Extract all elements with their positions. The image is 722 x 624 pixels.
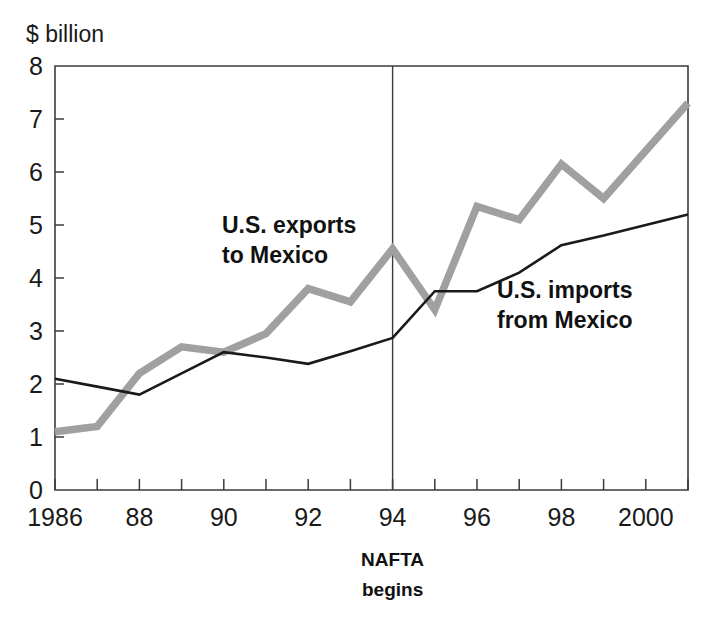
x-tick-label: 94 (379, 503, 407, 531)
y-tick-label: 2 (29, 370, 43, 398)
exports-label-line2: to Mexico (222, 242, 328, 268)
y-tick-label: 5 (29, 211, 43, 239)
x-tick-label: 98 (547, 503, 575, 531)
y-axis-unit-label: $ billion (26, 21, 104, 47)
chart-page: $ billion 012345678 19868890929496982000… (0, 0, 722, 624)
y-tick-label: 0 (29, 476, 43, 504)
imports-label-line1: U.S. imports (497, 277, 632, 303)
y-tick-label: 1 (29, 423, 43, 451)
x-tick-label: 1986 (27, 503, 83, 531)
x-tick-label: 96 (463, 503, 491, 531)
y-tick-label: 4 (29, 264, 43, 292)
x-tick-label: 90 (210, 503, 238, 531)
y-tick-label: 3 (29, 317, 43, 345)
imports-label-line2: from Mexico (497, 307, 632, 333)
x-tick-label: 92 (294, 503, 322, 531)
nafta-label-line2: begins (362, 579, 423, 600)
y-tick-label: 6 (29, 158, 43, 186)
x-tick-label: 88 (125, 503, 153, 531)
y-axis-tick-labels: 012345678 (29, 52, 43, 504)
x-tick-label: 2000 (618, 503, 674, 531)
y-tick-label: 8 (29, 52, 43, 80)
y-tick-label: 7 (29, 105, 43, 133)
nafta-label-line1: NAFTA (361, 549, 424, 570)
line-chart: $ billion 012345678 19868890929496982000… (0, 0, 722, 624)
exports-label-line1: U.S. exports (222, 212, 356, 238)
